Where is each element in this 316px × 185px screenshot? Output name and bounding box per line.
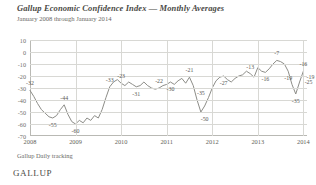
data-point-label: -35 — [292, 98, 300, 104]
x-axis-labels: 2008200920102011201220132014 — [30, 138, 307, 150]
gridline-vertical — [303, 40, 304, 136]
data-point-label: -22 — [155, 78, 163, 84]
data-point-label: -55 — [49, 122, 57, 128]
y-axis-tick-label: -30 — [18, 85, 26, 92]
y-axis-tick-label: -60 — [18, 121, 26, 128]
data-point-label: -35 — [197, 90, 205, 96]
x-axis-tick-label: 2014 — [297, 138, 310, 145]
y-axis-tick-label: -50 — [18, 109, 26, 116]
y-axis-tick-label: 0 — [23, 49, 26, 56]
gridline-horizontal — [30, 124, 307, 125]
gridline-horizontal — [30, 64, 307, 65]
data-point-label: -16 — [261, 76, 269, 82]
y-axis-tick-label: -10 — [18, 61, 26, 68]
gridline-horizontal — [30, 52, 307, 53]
x-axis-tick-label: 2010 — [115, 138, 128, 145]
data-point-label: -32 — [26, 80, 34, 86]
data-point-label: -44 — [60, 95, 68, 101]
x-axis-tick-label: 2011 — [160, 138, 173, 145]
x-axis-tick-label: 2012 — [206, 138, 219, 145]
data-point-label: -33 — [106, 77, 114, 83]
chart-title: Gallup Economic Confidence Index — Month… — [17, 3, 224, 13]
data-point-label: -21 — [186, 67, 194, 73]
source-note: Gallup Daily tracking — [17, 152, 73, 159]
y-axis-tick-label: -20 — [18, 73, 26, 80]
x-axis-tick-label: 2009 — [69, 138, 82, 145]
gridline-horizontal — [30, 100, 307, 101]
data-point-label: -27 — [220, 80, 228, 86]
gridline-vertical — [121, 40, 122, 136]
data-point-label: -60 — [72, 128, 80, 134]
plot-area: -32-55-44-60-33-23-31-22-30-21-35-50-27-… — [30, 40, 307, 136]
gridline-vertical — [76, 40, 77, 136]
x-axis-tick-label: 2013 — [251, 138, 264, 145]
gridline-horizontal — [30, 40, 307, 41]
data-point-label: -16 — [299, 61, 307, 67]
gridline-horizontal — [30, 112, 307, 113]
gridline-vertical — [212, 40, 213, 136]
data-point-label: -19 — [307, 74, 315, 80]
y-axis-tick-label: 10 — [20, 37, 26, 44]
data-point-label: -50 — [201, 116, 209, 122]
y-axis-labels: 100-10-20-30-40-50-60-70 — [0, 40, 29, 136]
data-point-label: -19 — [284, 75, 292, 81]
gallup-logo: GALLUP — [13, 168, 52, 178]
chart-container: Gallup Economic Confidence Index — Month… — [0, 0, 316, 185]
gridline-vertical — [258, 40, 259, 136]
y-axis-tick-label: -40 — [18, 97, 26, 104]
data-point-label: -23 — [117, 73, 125, 79]
data-point-label: -30 — [167, 86, 175, 92]
data-point-label: -7 — [274, 50, 279, 56]
x-axis-tick-label: 2008 — [24, 138, 37, 145]
data-point-label: -13 — [246, 64, 254, 70]
chart-subtitle: January 2008 through January 2014 — [17, 15, 112, 22]
data-point-label: -31 — [132, 91, 140, 97]
